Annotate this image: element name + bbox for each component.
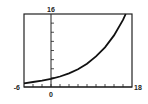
y-max-label: 16 [47, 6, 55, 13]
chart: 16 -6 18 0 [0, 0, 148, 104]
x-max-label: 18 [134, 84, 142, 91]
x-min-label: -6 [14, 84, 20, 91]
origin-label: 0 [49, 91, 53, 98]
plot-frame [24, 14, 132, 87]
data-curve [24, 14, 126, 83]
